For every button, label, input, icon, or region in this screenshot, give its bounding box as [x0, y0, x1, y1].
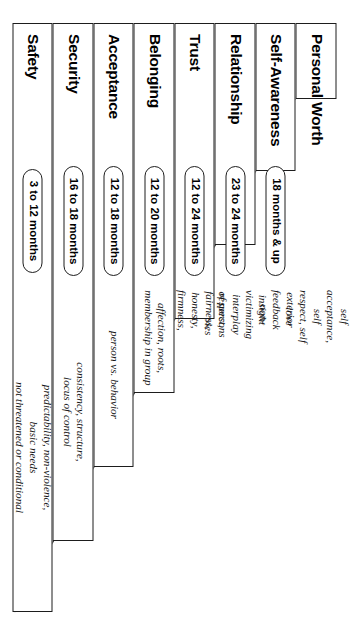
age-range-pill[interactable]: 12 to 24 months: [184, 165, 204, 276]
pyramid-diagram: Personal Worth self acceptance, self res…: [11, 23, 336, 613]
tier-title: Safety: [23, 34, 41, 162]
tier-title: Belonging: [145, 34, 163, 162]
tier-descriptor: predictability, non-violence, basic need…: [12, 280, 53, 611]
tier-personal-worth[interactable]: Personal Worth self acceptance, self res…: [296, 23, 337, 99]
age-pill-slot: 12 to 24 months: [184, 162, 204, 280]
age-range-pill[interactable]: 12 to 18 months: [103, 165, 123, 276]
tier-relationship[interactable]: Relationship 23 to 24 months non-victimi…: [215, 23, 256, 245]
pyramid-rotation-wrapper: Personal Worth self acceptance, self res…: [11, 23, 336, 613]
age-range-pill[interactable]: 16 to 18 months: [63, 165, 83, 276]
age-range-pill[interactable]: 3 to 12 months: [22, 168, 42, 272]
tier-title: Self-Awareness: [266, 34, 284, 162]
age-pill-slot: 12 to 20 months: [144, 162, 164, 280]
tier-title: Trust: [185, 34, 203, 162]
tier-safety[interactable]: Safety 3 to 12 months predictability, no…: [12, 23, 53, 612]
age-pill-slot: 18 months & up: [265, 162, 285, 280]
age-pill-slot: 3 to 12 months: [22, 162, 42, 280]
age-range-pill[interactable]: 18 months & up: [265, 166, 285, 275]
tier-acceptance[interactable]: Acceptance 12 to 18 months person vs. be…: [93, 23, 134, 467]
tier-descriptor: affection, roots, membership in group: [140, 280, 167, 392]
tier-descriptor: consistency, structure, locus of control: [59, 280, 86, 540]
age-range-pill[interactable]: 12 to 20 months: [144, 165, 164, 276]
tier-title: Personal Worth: [307, 34, 325, 162]
tier-title: Relationship: [226, 34, 244, 162]
tier-title: Acceptance: [104, 34, 122, 162]
tier-belonging[interactable]: Belonging 12 to 20 months affection, roo…: [134, 23, 175, 393]
age-range-pill[interactable]: 23 to 24 months: [225, 165, 245, 276]
tier-self-awareness[interactable]: Self-Awareness 18 months & up exterior f…: [255, 23, 296, 171]
tier-security[interactable]: Security 16 to 18 months consistency, st…: [53, 23, 94, 541]
age-pill-slot: 16 to 18 months: [63, 162, 83, 280]
tier-descriptor: person vs. behavior: [106, 280, 120, 466]
age-pill-slot: 23 to 24 months: [225, 162, 245, 280]
age-pill-slot: 12 to 18 months: [103, 162, 123, 280]
tier-title: Security: [64, 34, 82, 162]
tier-trust[interactable]: Trust 12 to 24 months respect, fairness,…: [174, 23, 215, 319]
